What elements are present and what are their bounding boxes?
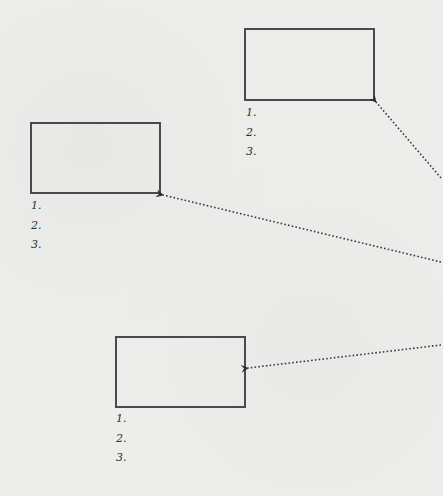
- diagram-box-bottom: [115, 336, 246, 408]
- paper-background: [0, 0, 443, 496]
- list-item: 3.: [116, 448, 127, 468]
- numbered-list-bottom: 1. 2. 3.: [116, 409, 127, 468]
- list-item: 1.: [116, 409, 127, 429]
- list-item: 2.: [116, 429, 127, 449]
- list-item: 1.: [246, 103, 257, 123]
- list-item: 2.: [246, 123, 257, 143]
- numbered-list-left: 1. 2. 3.: [31, 196, 42, 255]
- list-item: 3.: [31, 235, 42, 255]
- diagram-box-left: [30, 122, 161, 194]
- list-item: 1.: [31, 196, 42, 216]
- list-item: 3.: [246, 142, 257, 162]
- list-item: 2.: [31, 216, 42, 236]
- diagram-box-top-right: [244, 28, 375, 101]
- numbered-list-top-right: 1. 2. 3.: [246, 103, 257, 162]
